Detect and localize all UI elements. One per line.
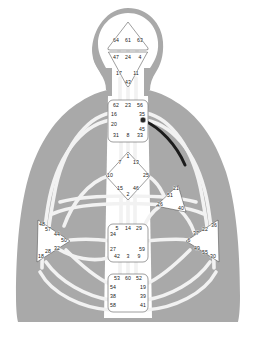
gate-number-52[interactable]: 52 (136, 275, 142, 281)
channel-spleen-sacral (70, 239, 112, 241)
gate-number-23[interactable]: 23 (125, 102, 131, 108)
gate-number-32[interactable]: 32 (54, 245, 60, 251)
gate-number-28[interactable]: 28 (45, 248, 51, 254)
gate-number-38[interactable]: 38 (110, 293, 116, 299)
gate-number-7[interactable]: 7 (119, 159, 122, 165)
gate-number-58[interactable]: 58 (110, 302, 116, 308)
gate-number-34[interactable]: 34 (110, 231, 116, 237)
gate-number-48[interactable]: 48 (39, 221, 45, 227)
gate-number-63[interactable]: 63 (137, 37, 143, 43)
gate-number-1[interactable]: 1 (127, 153, 130, 159)
gate-number-5[interactable]: 5 (116, 225, 119, 231)
gate-number-49[interactable]: 49 (194, 245, 200, 251)
gate-number-25[interactable]: 25 (143, 172, 149, 178)
gate-number-36[interactable]: 36 (211, 222, 217, 228)
gate-number-37[interactable]: 37 (193, 230, 199, 236)
gate-number-42[interactable]: 42 (114, 253, 120, 259)
gate-number-62[interactable]: 62 (113, 102, 119, 108)
gate-number-57[interactable]: 57 (45, 226, 51, 232)
gate-number-10[interactable]: 10 (107, 172, 113, 178)
gate-number-2[interactable]: 2 (127, 191, 130, 197)
gate-number-3[interactable]: 3 (127, 253, 130, 259)
gate-number-54[interactable]: 54 (110, 284, 116, 290)
gate-number-56[interactable]: 56 (137, 102, 143, 108)
gate-number-61[interactable]: 61 (125, 37, 131, 43)
gate-number-40[interactable]: 40 (178, 205, 184, 211)
gate-number-64[interactable]: 64 (113, 37, 119, 43)
gate-number-11[interactable]: 11 (133, 70, 138, 76)
activation-dot-gate-12[interactable] (140, 117, 146, 123)
gate-number-29[interactable]: 29 (136, 225, 142, 231)
gate-number-8[interactable]: 8 (127, 132, 130, 138)
gate-number-59[interactable]: 59 (139, 246, 145, 252)
gate-number-19[interactable]: 19 (140, 284, 146, 290)
gate-number-27[interactable]: 27 (110, 246, 116, 252)
gate-number-17[interactable]: 17 (116, 70, 122, 76)
gate-number-44[interactable]: 44 (54, 231, 60, 237)
bodygraph-svg: 6461634724417114362235616203512453183317… (0, 0, 256, 337)
gate-number-15[interactable]: 15 (117, 185, 123, 191)
gate-number-33[interactable]: 33 (137, 132, 143, 138)
gate-number-55[interactable]: 55 (202, 249, 208, 255)
gate-number-50[interactable]: 50 (61, 237, 67, 243)
gate-number-18[interactable]: 18 (38, 253, 44, 259)
gate-number-39[interactable]: 39 (140, 293, 146, 299)
gate-number-24[interactable]: 24 (125, 54, 131, 60)
bodygraph-diagram: 6461634724417114362235616203512453183317… (0, 0, 256, 337)
gate-number-26[interactable]: 26 (157, 201, 163, 207)
gate-number-60[interactable]: 60 (125, 275, 131, 281)
gate-number-14[interactable]: 14 (125, 225, 131, 231)
gate-number-4[interactable]: 4 (139, 54, 142, 60)
gate-number-31[interactable]: 31 (113, 132, 119, 138)
gate-number-16[interactable]: 16 (111, 111, 117, 117)
gate-number-20[interactable]: 20 (111, 121, 117, 127)
gate-number-21[interactable]: 21 (173, 185, 179, 191)
gate-number-53[interactable]: 53 (114, 275, 120, 281)
gate-number-46[interactable]: 46 (133, 185, 139, 191)
gate-number-9[interactable]: 9 (138, 253, 141, 259)
gate-number-22[interactable]: 22 (202, 226, 208, 232)
channel-sacral-solarplexus (144, 239, 188, 241)
gate-number-43[interactable]: 43 (125, 79, 131, 85)
gate-number-6[interactable]: 6 (188, 237, 191, 243)
gate-number-30[interactable]: 30 (210, 253, 216, 259)
gate-number-47[interactable]: 47 (113, 54, 119, 60)
gate-number-41[interactable]: 41 (140, 302, 146, 308)
activation-layer (140, 117, 146, 123)
gate-number-51[interactable]: 51 (167, 192, 173, 198)
gate-number-13[interactable]: 13 (133, 159, 139, 165)
